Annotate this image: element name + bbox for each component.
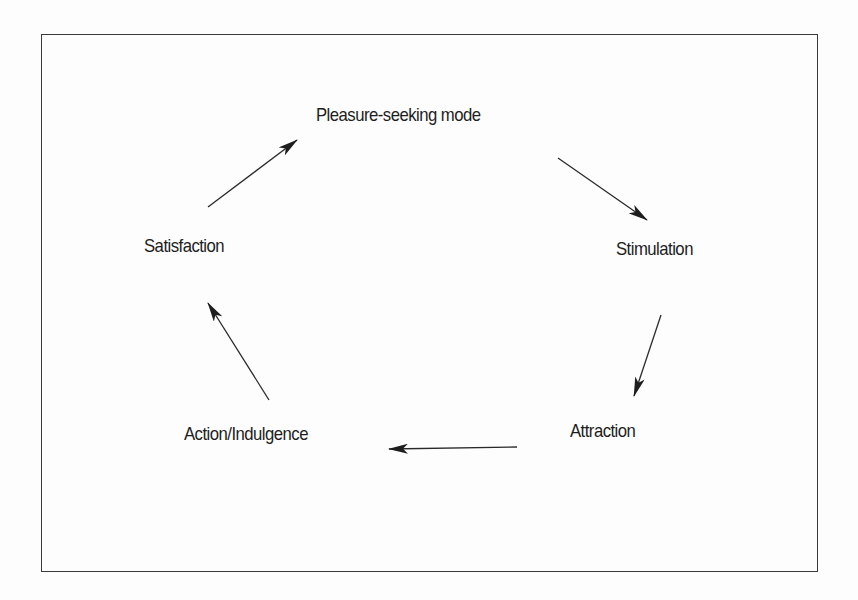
arrow-pleasure-to-stimulation [558,158,647,220]
arrow-satisfaction-to-pleasure [208,140,297,207]
arrow-action-to-satisfaction [208,303,269,400]
cycle-arrows [0,0,858,600]
arrow-stimulation-to-attraction [634,315,661,396]
arrow-attraction-to-action [389,447,517,449]
